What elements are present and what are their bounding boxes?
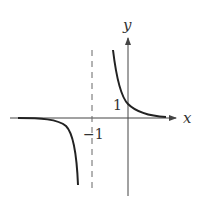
- graph: x y −1 1: [0, 0, 206, 200]
- one-label: 1: [113, 97, 122, 113]
- x-axis-label: x: [183, 109, 192, 127]
- left-branch-curve: [18, 118, 78, 185]
- y-axis-label: y: [122, 16, 132, 34]
- neg-one-label: −1: [83, 126, 104, 142]
